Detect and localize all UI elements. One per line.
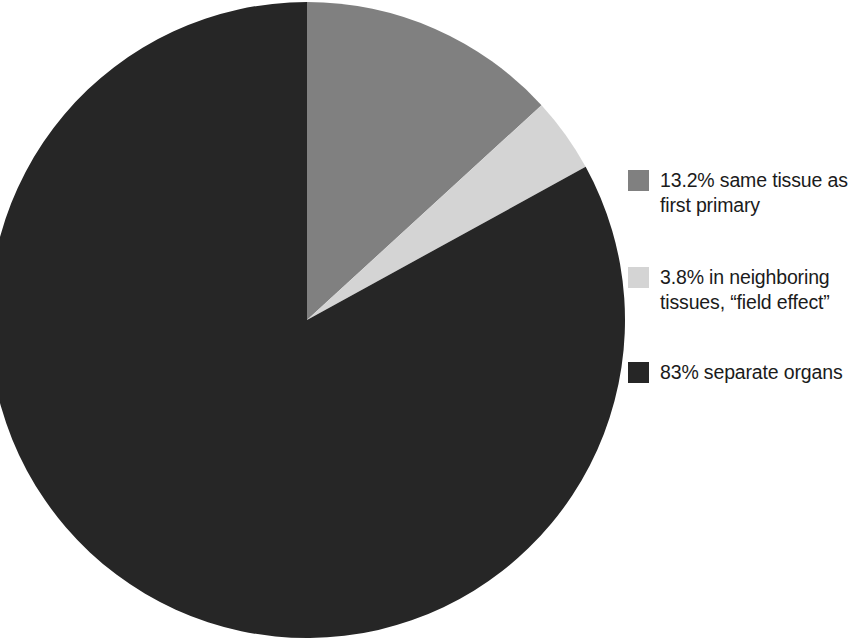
legend-label-same-tissue: 13.2% same tissue as first primary	[660, 168, 848, 218]
legend-swatch-icon-same-tissue	[628, 170, 649, 191]
pie-chart-figure: 13.2% same tissue as first primary 3.8% …	[0, 0, 866, 640]
legend-swatch-icon-separate-organs	[628, 362, 649, 383]
pie-slice-group	[0, 2, 625, 638]
legend-item-separate-organs[interactable]: 83% separate organs	[628, 360, 843, 385]
legend-item-neighboring-tissues[interactable]: 3.8% in neighboring tissues, “field effe…	[628, 265, 830, 315]
legend-swatch-icon-neighboring-tissues	[628, 267, 649, 288]
legend-label-neighboring-tissues: 3.8% in neighboring tissues, “field effe…	[660, 265, 830, 315]
legend-item-same-tissue[interactable]: 13.2% same tissue as first primary	[628, 168, 848, 218]
legend-label-separate-organs: 83% separate organs	[660, 360, 843, 385]
chart-legend: 13.2% same tissue as first primary 3.8% …	[628, 0, 866, 640]
